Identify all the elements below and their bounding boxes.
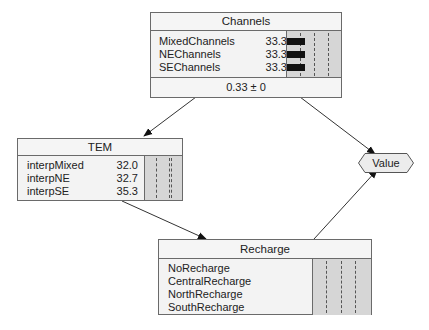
belief-bars (286, 31, 341, 78)
state-label: NEChannels (159, 48, 221, 61)
state-label: CentralRecharge (168, 275, 251, 288)
edge-tem-recharge (122, 201, 206, 239)
belief-bar (287, 64, 305, 71)
belief-bar (287, 38, 305, 45)
node-expected-value: 0.33 ± 0 (151, 77, 341, 97)
node-title: Recharge (159, 240, 371, 259)
node-label: Value (358, 153, 414, 173)
state-label: interpMixed (27, 159, 84, 172)
edge-recharge-value (314, 170, 377, 239)
state-label: MixedChannels (159, 35, 235, 48)
state-label: interpSE (27, 185, 69, 198)
edge-channels-value (300, 97, 375, 154)
state-value: 33.3 (266, 48, 287, 61)
state-value: 35.3 (117, 185, 138, 198)
belief-bars (144, 156, 182, 200)
node-title: TEM (18, 139, 182, 156)
state-value: 33.3 (266, 35, 287, 48)
node-title: Channels (151, 13, 341, 31)
state-label: NorthRecharge (168, 288, 243, 301)
node-recharge[interactable]: Recharge NoRecharge CentralRecharge Nort… (158, 239, 372, 315)
state-value: 32.0 (117, 159, 138, 172)
belief-bar (287, 51, 305, 58)
edge-channels-tem (144, 97, 196, 136)
node-channels[interactable]: Channels MixedChannels 33.3 NEChannels 3… (150, 12, 342, 98)
state-label: SouthRecharge (168, 301, 244, 314)
node-value[interactable]: Value (358, 153, 414, 173)
state-label: NoRecharge (168, 262, 230, 275)
state-value: 33.3 (266, 61, 287, 74)
state-label: interpNE (27, 172, 70, 185)
state-label: SEChannels (159, 61, 220, 74)
belief-bars (312, 259, 371, 315)
state-value: 32.7 (117, 172, 138, 185)
node-tem[interactable]: TEM interpMixed 32.0 interpNE 32.7 inter… (17, 138, 183, 201)
